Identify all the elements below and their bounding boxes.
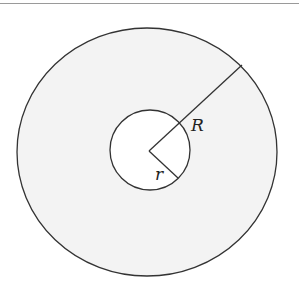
annulus-diagram: R r	[0, 0, 299, 290]
outer-radius-label: R	[190, 115, 204, 135]
diagram-canvas: R r	[0, 0, 299, 290]
inner-radius-label: r	[155, 164, 164, 184]
